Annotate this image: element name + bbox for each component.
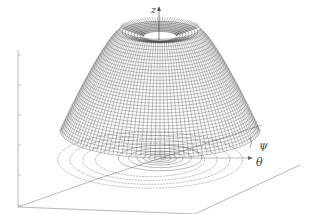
surface-plot: z ψ θ	[0, 0, 319, 214]
surface-plot-canvas	[0, 0, 319, 214]
psi-axis-label: ψ	[259, 139, 268, 152]
theta-axis-label: θ	[256, 156, 263, 169]
z-axis-label: z	[151, 4, 156, 15]
